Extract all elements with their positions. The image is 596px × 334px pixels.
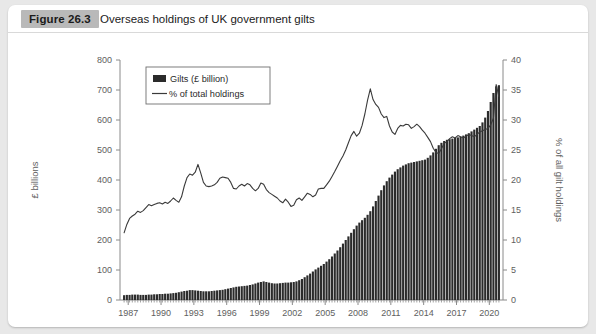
bar <box>454 138 456 300</box>
bar <box>238 287 240 301</box>
x-axis-tick-label: 2014 <box>414 308 434 318</box>
bar-series <box>123 85 500 300</box>
figure-title: Overseas holdings of UK government gilts <box>100 10 315 28</box>
bar <box>347 236 349 300</box>
bar <box>399 167 401 300</box>
bar <box>202 291 204 300</box>
bar <box>282 283 284 300</box>
bar <box>339 247 341 300</box>
bar <box>361 220 363 300</box>
bar <box>131 295 133 300</box>
percent-line-series <box>124 85 499 233</box>
bar <box>468 133 470 300</box>
bar <box>249 285 251 300</box>
right-axis-tick-label: 35 <box>511 85 521 95</box>
left-axis-tick-label: 700 <box>97 85 112 95</box>
bar <box>260 282 262 300</box>
bar <box>164 294 166 300</box>
bar <box>342 244 344 300</box>
bar <box>216 290 218 300</box>
bar <box>172 293 174 300</box>
bar <box>473 130 475 300</box>
bar <box>137 295 139 300</box>
bar <box>405 164 407 300</box>
left-axis-tick-label: 100 <box>97 265 112 275</box>
bar <box>364 218 366 300</box>
legend-swatch-gilts <box>153 75 166 82</box>
right-axis-tick-label: 20 <box>511 175 521 185</box>
right-axis-tick-label: 10 <box>511 235 521 245</box>
bar <box>465 134 467 300</box>
bar <box>276 284 278 301</box>
bar <box>186 291 188 300</box>
bar <box>279 283 281 300</box>
bar <box>295 281 297 300</box>
bar <box>438 145 440 300</box>
x-axis-tick-label: 2020 <box>479 308 499 318</box>
bar <box>178 292 180 300</box>
x-axis-tick-label: 2008 <box>348 308 368 318</box>
right-axis-tick-label: 15 <box>511 205 521 215</box>
bar <box>246 286 248 300</box>
bar <box>142 295 144 300</box>
bar <box>175 293 177 300</box>
bar <box>159 294 161 300</box>
bar <box>358 223 360 300</box>
bar <box>479 126 481 300</box>
bar <box>443 141 445 300</box>
bar <box>306 275 308 300</box>
bar <box>476 128 478 300</box>
bar <box>320 266 322 300</box>
bar <box>170 293 172 300</box>
left-axis-tick-label: 800 <box>97 55 112 65</box>
bar <box>356 226 358 300</box>
bar <box>372 206 374 300</box>
bar <box>153 294 155 300</box>
bar <box>460 137 462 300</box>
figure-panel: Figure 26.3 Overseas holdings of UK gove… <box>8 5 588 327</box>
bar <box>126 295 128 300</box>
right-axis-tick-label: 30 <box>511 115 521 125</box>
bar <box>156 294 158 300</box>
bar <box>298 280 300 300</box>
bar <box>391 175 393 300</box>
bar <box>410 163 412 300</box>
bar <box>429 155 431 300</box>
bar <box>377 196 379 300</box>
bar <box>232 287 234 300</box>
bar <box>492 93 494 300</box>
bar <box>200 291 202 300</box>
bar <box>271 283 273 300</box>
bar <box>421 160 423 300</box>
bar <box>211 291 213 300</box>
bar <box>197 291 199 300</box>
right-axis-title: % of all gilt holdings <box>554 138 565 222</box>
bar <box>495 86 497 300</box>
left-axis-tick-label: 600 <box>97 115 112 125</box>
bar <box>183 291 185 300</box>
bar <box>139 295 141 300</box>
left-axis-tick-label: 300 <box>97 205 112 215</box>
bar <box>208 291 210 300</box>
bar <box>227 289 229 300</box>
bar <box>287 283 289 300</box>
bar <box>484 118 486 300</box>
bar <box>309 274 311 300</box>
bar <box>161 294 163 300</box>
bar <box>402 166 404 300</box>
bar <box>241 286 243 300</box>
bar <box>301 279 303 300</box>
bar <box>191 290 193 300</box>
bar <box>290 282 292 300</box>
bar <box>312 272 314 301</box>
bar <box>334 254 336 301</box>
bar <box>224 289 226 300</box>
bar <box>383 185 385 300</box>
bar <box>416 161 418 300</box>
bar <box>498 85 500 300</box>
bar <box>350 233 352 300</box>
bar <box>252 284 254 300</box>
bar <box>317 268 319 300</box>
bar <box>336 251 338 301</box>
bar <box>123 295 125 300</box>
